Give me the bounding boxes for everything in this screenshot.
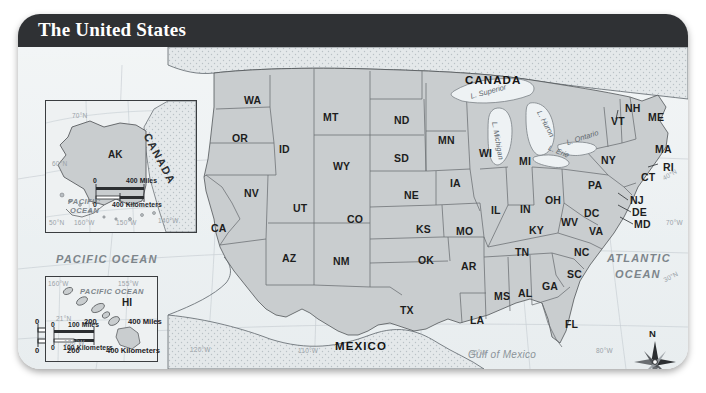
state-label-ky: KY bbox=[529, 224, 544, 236]
grid-label: 60°N bbox=[52, 160, 67, 167]
country-label-mexico: MEXICO bbox=[335, 340, 387, 352]
state-label-al: AL bbox=[518, 287, 532, 299]
scale-km-label: 400 Kilometers bbox=[112, 201, 162, 208]
state-label-il: IL bbox=[491, 204, 501, 216]
state-label-ma: MA bbox=[655, 143, 672, 155]
state-label-mi: MI bbox=[519, 155, 531, 167]
scale-km-label: 400 Kilometers bbox=[106, 346, 160, 355]
state-label-mn: MN bbox=[438, 134, 455, 146]
state-label-me: ME bbox=[648, 111, 664, 123]
grid-label: 160°W bbox=[74, 219, 95, 226]
state-label-in: IN bbox=[520, 203, 531, 215]
grid-label: 140°W bbox=[158, 217, 179, 224]
state-label-nh: NH bbox=[625, 102, 641, 114]
compass-north-label: N bbox=[649, 328, 656, 339]
ocean-label-atlantic-line1: ATLANTIC bbox=[607, 252, 671, 264]
state-label-fl: FL bbox=[565, 318, 578, 330]
alaska-graphic bbox=[46, 101, 196, 232]
scale-zero-km: 0 bbox=[35, 346, 39, 355]
ocean-label-atlantic-line2: OCEAN bbox=[615, 268, 661, 280]
state-label-ar: AR bbox=[461, 260, 477, 272]
state-label-pa: PA bbox=[588, 179, 602, 191]
state-label-md: MD bbox=[634, 218, 651, 230]
state-label-sc: SC bbox=[567, 268, 582, 280]
compass-rose bbox=[632, 339, 678, 369]
state-label-ks: KS bbox=[416, 223, 431, 235]
grid-label: 150°W bbox=[116, 219, 137, 226]
grid-label-90w: 90°W bbox=[470, 349, 487, 356]
state-label-de: DE bbox=[632, 206, 647, 218]
scale-zero-km: 0 bbox=[51, 344, 55, 351]
state-label-tn: TN bbox=[515, 246, 529, 258]
state-label-vt: VT bbox=[611, 115, 625, 127]
grid-label: 70°N bbox=[72, 112, 87, 119]
inset-label-pacific-ocean: PACIFIC OCEAN bbox=[80, 287, 144, 296]
state-label-tx: TX bbox=[400, 304, 414, 316]
ocean-label-pacific: PACIFIC OCEAN bbox=[56, 253, 158, 265]
state-label-wv: WV bbox=[561, 216, 578, 228]
state-label-nd: ND bbox=[394, 114, 410, 126]
scale-zero-km: 0 bbox=[93, 201, 97, 208]
state-label-ne: NE bbox=[404, 189, 419, 201]
state-label-ct: CT bbox=[641, 171, 655, 183]
scale-tick-200-km: 200 bbox=[67, 346, 80, 355]
country-label-canada: CANADA bbox=[465, 74, 521, 86]
state-label-ny: NY bbox=[601, 154, 616, 166]
inset-label-ak: AK bbox=[108, 149, 122, 160]
state-label-nj: NJ bbox=[630, 194, 644, 206]
state-label-nv: NV bbox=[244, 187, 259, 199]
scale-zero-miles: 0 bbox=[51, 321, 55, 328]
state-label-ca: CA bbox=[211, 222, 227, 234]
state-label-nm: NM bbox=[333, 255, 350, 267]
state-label-co: CO bbox=[347, 213, 363, 225]
state-label-wi: WI bbox=[479, 147, 492, 159]
scale-miles-label: 400 Miles bbox=[128, 317, 162, 326]
state-label-ut: UT bbox=[293, 202, 307, 214]
state-label-ia: IA bbox=[450, 177, 461, 189]
grid-label-130w: 130°W bbox=[64, 339, 85, 346]
state-label-ga: GA bbox=[542, 280, 558, 292]
grid-label-70w: 70°W bbox=[666, 219, 683, 226]
state-label-ms: MS bbox=[494, 290, 510, 302]
state-label-wa: WA bbox=[244, 94, 261, 106]
state-label-az: AZ bbox=[282, 252, 296, 264]
state-label-nc: NC bbox=[574, 246, 590, 258]
state-label-la: LA bbox=[470, 314, 484, 326]
state-label-ok: OK bbox=[418, 254, 434, 266]
state-label-mo: MO bbox=[456, 225, 473, 237]
state-label-or: OR bbox=[232, 132, 248, 144]
page-title: The United States bbox=[38, 19, 186, 41]
grid-label-110w: 110°W bbox=[298, 347, 318, 354]
grid-label-80w: 80°W bbox=[596, 347, 613, 354]
state-label-wy: WY bbox=[333, 160, 350, 172]
grid-label: 50°N bbox=[49, 219, 64, 226]
scale-tick-200-miles: 200 bbox=[84, 317, 97, 326]
state-label-mt: MT bbox=[323, 111, 339, 123]
state-label-id: ID bbox=[279, 143, 290, 155]
scale-miles-label: 400 Miles bbox=[126, 177, 157, 184]
inset-label-hi: HI bbox=[122, 297, 132, 308]
grid-label: 160°W bbox=[48, 280, 69, 287]
scale-zero-miles: 0 bbox=[93, 177, 97, 184]
state-label-sd: SD bbox=[394, 152, 409, 164]
map-canvas: AK CANADA PACIFIC OCEAN 70°N 60°N 50°N 1… bbox=[18, 47, 688, 369]
grid-label: 155°W bbox=[118, 280, 139, 287]
state-label-dc: DC bbox=[584, 207, 600, 219]
inset-map-alaska: AK CANADA PACIFIC OCEAN 70°N 60°N 50°N 1… bbox=[45, 100, 197, 233]
map-card: The United States bbox=[18, 14, 688, 369]
scale-zero-miles: 0 bbox=[35, 317, 39, 326]
map-header-bar: The United States bbox=[18, 14, 688, 47]
grid-label-120w: 120°W bbox=[190, 346, 211, 353]
state-label-va: VA bbox=[589, 225, 603, 237]
state-label-oh: OH bbox=[545, 194, 561, 206]
